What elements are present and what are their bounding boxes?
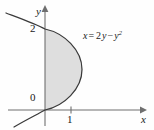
- figure-parabola-shaded-region: y x 2 0 1 x=2y−y2: [0, 0, 154, 130]
- y-axis-arrowhead: [42, 5, 49, 12]
- curve-equation-label: x=2y−y2: [83, 30, 122, 41]
- equation-exponent: 2: [119, 29, 122, 36]
- y-axis-label: y: [36, 6, 41, 17]
- x-tick-label-1: 1: [67, 114, 73, 125]
- shaded-region: [45, 29, 82, 110]
- graph-canvas: [0, 0, 154, 130]
- origin-label: 0: [30, 92, 36, 103]
- equation-y-var: y: [102, 30, 106, 41]
- x-axis-label: x: [141, 114, 146, 125]
- y-tick-label-2: 2: [30, 23, 36, 34]
- equation-equals: =: [87, 30, 95, 41]
